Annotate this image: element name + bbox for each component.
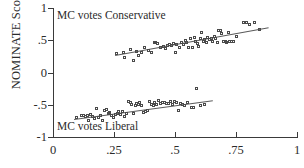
- x-tick-label: 0: [33, 143, 73, 158]
- data-point: [245, 21, 248, 24]
- data-point: [253, 21, 256, 24]
- data-point: [75, 116, 78, 119]
- data-point: [80, 114, 83, 117]
- data-point: [174, 51, 177, 54]
- data-point: [183, 104, 186, 107]
- data-point: [172, 42, 175, 45]
- data-point: [125, 112, 128, 115]
- data-point: [196, 42, 199, 45]
- data-point: [163, 101, 166, 104]
- data-point: [89, 113, 92, 116]
- x-tick: [297, 132, 298, 138]
- data-point: [182, 43, 185, 46]
- x-tick: [175, 132, 176, 138]
- data-point: [114, 113, 117, 116]
- annotation-conservative: MC votes Conservative: [57, 9, 166, 21]
- data-point: [152, 104, 155, 107]
- data-point: [142, 111, 145, 114]
- data-point: [95, 107, 98, 110]
- data-point: [137, 103, 140, 106]
- y-tick-label: .5: [3, 35, 47, 45]
- data-point: [105, 108, 108, 111]
- y-tick-label: 1: [3, 3, 47, 13]
- data-point: [82, 114, 85, 117]
- data-point: [129, 48, 132, 51]
- data-point: [127, 100, 130, 103]
- data-point: [173, 100, 176, 103]
- y-tick: [48, 105, 53, 106]
- data-point: [132, 59, 135, 62]
- data-point: [99, 114, 102, 117]
- data-point: [144, 110, 147, 113]
- y-tick-label: -.5: [3, 100, 47, 110]
- data-point: [147, 49, 150, 52]
- data-point: [175, 101, 178, 104]
- data-point: [103, 109, 106, 112]
- data-point: [227, 31, 230, 34]
- data-point: [187, 46, 190, 49]
- y-tick-label: 0: [3, 68, 47, 78]
- data-point: [203, 103, 206, 106]
- x-tick-label: .25: [94, 143, 134, 158]
- data-point: [162, 45, 165, 48]
- data-point: [122, 51, 125, 54]
- data-point: [135, 102, 138, 105]
- annotation-liberal: MC votes Liberal: [57, 120, 138, 132]
- data-point: [230, 40, 233, 43]
- data-point: [222, 40, 225, 43]
- data-point: [164, 47, 167, 50]
- data-point: [115, 52, 118, 55]
- data-point: [232, 40, 235, 43]
- data-point: [156, 42, 159, 45]
- data-point: [159, 46, 162, 49]
- data-point: [211, 40, 214, 43]
- data-point: [108, 111, 111, 114]
- data-point: [200, 31, 203, 34]
- data-point: [194, 40, 197, 43]
- data-point: [110, 114, 113, 117]
- data-point: [167, 102, 170, 105]
- data-point: [195, 87, 198, 90]
- x-tick: [114, 132, 115, 138]
- x-tick-label: .75: [216, 143, 256, 158]
- x-tick-label: .5: [155, 143, 195, 158]
- data-point: [192, 106, 195, 109]
- data-point: [148, 100, 151, 103]
- data-point: [107, 112, 110, 115]
- data-point: [129, 101, 132, 104]
- data-point: [214, 37, 217, 40]
- chart-root: NOMINATE Score 1.50-.5-1 0.25.5.751 MC v…: [0, 0, 304, 168]
- data-point: [161, 101, 164, 104]
- data-point: [135, 50, 138, 53]
- data-point: [137, 54, 140, 57]
- data-point: [181, 103, 184, 106]
- data-point: [217, 29, 220, 32]
- data-point: [138, 101, 141, 104]
- data-point: [184, 39, 187, 42]
- data-point: [168, 43, 171, 46]
- data-point: [169, 100, 172, 103]
- data-point: [150, 51, 153, 54]
- data-point: [213, 35, 216, 38]
- data-point: [258, 28, 261, 31]
- data-point: [140, 51, 143, 54]
- data-point: [177, 109, 180, 112]
- data-point: [157, 99, 160, 102]
- data-point: [117, 110, 120, 113]
- data-point: [220, 32, 223, 35]
- data-point: [225, 41, 228, 44]
- data-point: [150, 103, 153, 106]
- data-point: [132, 112, 135, 115]
- data-point: [178, 46, 181, 49]
- data-point: [210, 37, 213, 40]
- data-point: [190, 106, 193, 109]
- data-point: [166, 44, 169, 47]
- data-point: [224, 40, 227, 43]
- data-point: [248, 23, 251, 26]
- regression-line: [74, 100, 213, 120]
- data-point: [91, 115, 94, 118]
- data-point: [216, 41, 219, 44]
- data-point: [235, 35, 238, 38]
- y-tick: [48, 73, 53, 74]
- data-point: [155, 103, 158, 106]
